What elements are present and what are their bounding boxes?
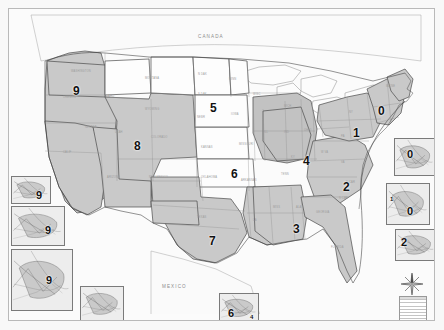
- state-label: ARIZONA: [107, 176, 120, 179]
- state-label: W VA: [321, 151, 328, 154]
- scale-legend: [399, 296, 427, 321]
- inset-chesapeake: 2: [395, 229, 435, 261]
- map-frame: WASHINGTONOREGONIDAHOMONTANAWYOMINGN DAK…: [8, 8, 435, 321]
- state-label: IND: [284, 131, 289, 134]
- state-label: LA: [253, 219, 257, 222]
- state-label: MICH: [284, 105, 291, 108]
- inset-new-york-sub: 1: [390, 196, 393, 202]
- inset-hawaii: [80, 286, 124, 321]
- state-label: S DAK: [198, 93, 207, 96]
- state-label: MISS: [273, 206, 280, 209]
- state-label: CALIF: [63, 151, 71, 154]
- circuit-4-great-lakes: 4: [303, 155, 310, 167]
- state-label: MISSOURI: [239, 143, 253, 146]
- state-label: WASHINGTON: [71, 70, 91, 73]
- state-label: TEXAS: [197, 216, 207, 219]
- circuit-8-mountain-west: 8: [134, 140, 141, 152]
- state-label: NEBR: [197, 116, 205, 119]
- state-label: ALA: [296, 206, 302, 209]
- circuit-6-central-plains: 6: [231, 168, 238, 180]
- inset-puget-sound-number: 9: [36, 190, 42, 201]
- inset-chesapeake-number: 2: [401, 237, 407, 248]
- state-label: N DAK: [198, 73, 207, 76]
- inset-new-york: 01: [386, 183, 430, 225]
- state-label: WYOMING: [145, 108, 159, 111]
- map-page: WASHINGTONOREGONIDAHOMONTANAWYOMINGN DAK…: [0, 0, 444, 330]
- state-label: KANSAS: [201, 146, 213, 149]
- inset-gulf-south-number: 6: [228, 308, 234, 319]
- state-label: TENN: [281, 173, 289, 176]
- circuit-9-pacific-northwest: 9: [73, 85, 80, 97]
- inset-new-york-number: 0: [407, 206, 413, 217]
- state-label: UTAH: [115, 131, 123, 134]
- state-label: GEORGIA: [316, 211, 330, 214]
- state-label: KY: [291, 156, 295, 159]
- state-label: NEW MEXICO: [149, 176, 168, 179]
- inset-alaska: 9: [11, 249, 73, 311]
- state-label: IDAHO: [105, 95, 114, 98]
- state-label: VA: [341, 161, 345, 164]
- state-label: OHIO: [304, 129, 311, 132]
- state-label: ARKANSAS: [241, 179, 257, 182]
- circuit-0-new-england: 0: [378, 105, 385, 117]
- inset-boston-number: 0: [407, 149, 413, 160]
- state-label: FLORIDA: [331, 246, 344, 249]
- state-label: NY: [349, 111, 353, 114]
- inset-gulf-south: 64: [219, 293, 259, 321]
- state-label: MAINE: [386, 85, 395, 88]
- inset-san-francisco-bay-number: 9: [45, 225, 51, 236]
- inset-san-francisco-bay: 9: [11, 206, 65, 246]
- circuit-5-northern-plains: 5: [210, 102, 217, 114]
- scale-legend-row: [400, 316, 426, 319]
- country-label-mexico: MEXICO: [162, 284, 187, 289]
- state-label: IOWA: [231, 113, 239, 116]
- country-label-canada: CANADA: [198, 34, 224, 39]
- inset-boston: 0: [394, 138, 435, 176]
- circuit-3-deep-south: 3: [293, 223, 300, 235]
- state-label: MINN: [229, 78, 236, 81]
- state-label: COLORADO: [151, 136, 167, 139]
- state-label: PA: [341, 135, 345, 138]
- state-label: WISC: [253, 93, 261, 96]
- state-label: NEVADA: [85, 126, 97, 129]
- inset-gulf-south-sub: 4: [250, 314, 253, 320]
- circuit-1-mid-atlantic-north: 1: [353, 127, 360, 139]
- state-label: OKLAHOMA: [201, 176, 217, 179]
- circuit-7-south-central: 7: [209, 235, 216, 247]
- inset-alaska-number: 9: [46, 275, 52, 286]
- inset-puget-sound: 9: [11, 176, 51, 204]
- state-label: MONTANA: [145, 77, 159, 80]
- state-label: S CAR: [339, 197, 348, 200]
- circuit-2-southeast-atlantic: 2: [343, 181, 350, 193]
- state-label: ILL: [264, 131, 268, 134]
